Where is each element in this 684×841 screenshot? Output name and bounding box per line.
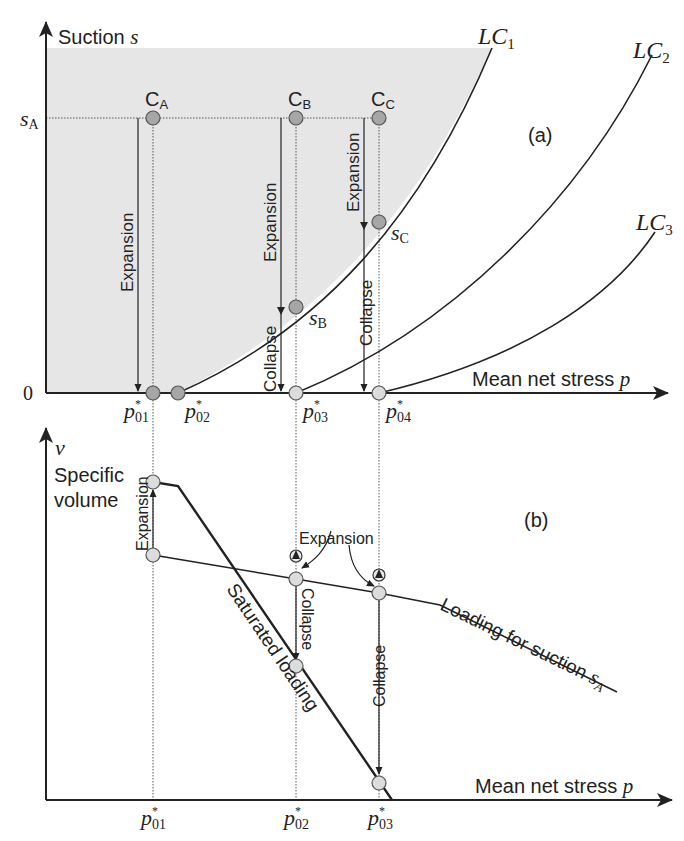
origin-label: 0 xyxy=(23,382,33,404)
lc3-label: LC3 xyxy=(635,209,673,238)
collapse-label-c: Collapse xyxy=(357,280,376,346)
collapse-label-c: Collapse xyxy=(371,645,388,707)
expansion-marker-c xyxy=(373,569,385,581)
point-p04 xyxy=(372,386,386,400)
tick-label-a-p01: p*01 xyxy=(122,397,149,425)
v-axis-symbol: v xyxy=(55,435,65,460)
mean-net-stress-label-a: Mean net stress p xyxy=(472,367,630,391)
suction-loading-label: Loading for suction sA xyxy=(436,592,611,695)
tick-label-b-p02: p*02 xyxy=(282,804,309,832)
panel-a-label: (a) xyxy=(528,124,552,146)
panel-b: v Specific volume Mean net stress p (b) xyxy=(46,428,672,832)
expansion-label-a: Expansion xyxy=(118,213,137,292)
point-p01 xyxy=(146,386,160,400)
specific-volume-label-line2: volume xyxy=(54,489,118,511)
expansion-label-left: Expansion xyxy=(134,476,151,551)
point-sc xyxy=(372,215,386,229)
point-label-sc: sC xyxy=(391,220,409,246)
lc2-label: LC2 xyxy=(632,37,670,66)
point-cb xyxy=(289,111,303,125)
bbm-yield-diagram: Suction s Mean net stress p 0 sA (a) LC1… xyxy=(0,0,684,841)
point-label-sb: sB xyxy=(309,305,327,331)
point-ca xyxy=(146,111,160,125)
tick-label-b-p01: p*01 xyxy=(139,804,166,832)
lc1-label: LC1 xyxy=(477,23,515,52)
point-p02 xyxy=(171,386,185,400)
sA-label: sA xyxy=(20,106,40,132)
expansion-curved-arrow-c xyxy=(349,545,374,586)
panel-a: Suction s Mean net stress p 0 sA (a) LC1… xyxy=(20,22,673,800)
tick-label-a-p02: p*02 xyxy=(183,397,210,425)
tick-label-a-p03: p*03 xyxy=(301,397,328,425)
collapse-label-b: Collapse xyxy=(299,588,316,650)
point-cc xyxy=(372,111,386,125)
specific-volume-label-line1: Specific xyxy=(54,464,124,486)
panel-b-label: (b) xyxy=(524,509,548,531)
expansion-label-c: Expansion xyxy=(344,133,363,212)
point-b-collapsed-c xyxy=(372,776,386,790)
tick-label-a-p04: p*04 xyxy=(384,397,411,425)
collapse-label-b: Collapse xyxy=(261,326,280,392)
mean-net-stress-label-b: Mean net stress p xyxy=(475,774,633,798)
expansion-label-b: Expansion xyxy=(261,183,280,262)
expansion-marker-b xyxy=(290,550,302,562)
expansion-label-middle: Expansion xyxy=(299,530,374,547)
point-sb xyxy=(289,300,303,314)
tick-label-b-p03: p*03 xyxy=(366,804,393,832)
point-b-p02 xyxy=(289,572,303,586)
point-b-p03 xyxy=(372,586,386,600)
suction-axis-label: Suction s xyxy=(58,25,138,49)
point-p03 xyxy=(289,386,303,400)
